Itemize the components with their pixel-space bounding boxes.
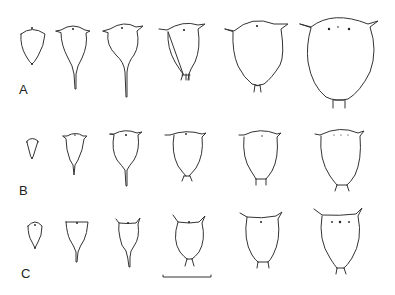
specimen-b2 <box>63 134 87 176</box>
specimen-b4 <box>165 132 206 181</box>
specimen-drawings <box>0 0 395 295</box>
specimen-a6 <box>300 18 378 108</box>
specimen-c1 <box>28 222 42 249</box>
specimen-b1 <box>26 139 38 160</box>
specimen-c3 <box>116 218 140 267</box>
specimen-a2 <box>56 26 90 89</box>
specimen-b6 <box>315 129 364 191</box>
specimen-a3 <box>103 24 143 97</box>
specimen-b3 <box>110 131 142 186</box>
specimen-a5 <box>225 21 288 92</box>
specimen-c5 <box>240 212 282 268</box>
specimen-c4 <box>173 215 205 266</box>
scale-bar <box>163 275 211 277</box>
specimen-a1 <box>21 27 45 65</box>
specimen-c2 <box>66 222 88 262</box>
specimen-a4 <box>159 23 205 80</box>
specimen-b5 <box>239 131 281 185</box>
specimen-c6 <box>314 208 362 274</box>
